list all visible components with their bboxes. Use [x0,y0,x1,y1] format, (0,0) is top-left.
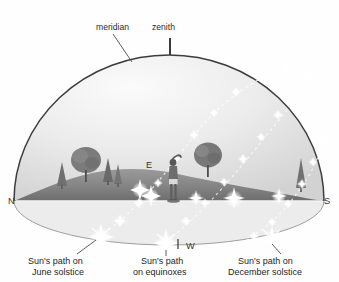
cardinal-label-west: W [186,241,195,251]
caption-december-solstice: Sun's path on December solstice [228,256,302,277]
meridian-leader [113,34,132,62]
meridian-label: meridian [96,22,129,32]
caption-december-line2: December solstice [228,267,302,277]
celestial-sphere-figure: meridian zenith N S E W Sun's path on Ju… [0,0,339,282]
cardinal-label-east: E [146,160,152,170]
caption-december-line1: Sun's path on [238,256,293,266]
star-marker [303,72,313,82]
caption-june-line2: June solstice [32,267,84,277]
caption-leader-june [77,240,96,254]
cardinal-label-south: S [324,196,330,206]
cardinal-label-north: N [8,196,15,206]
caption-june-line1: Sun's path on [28,256,83,266]
zenith-label: zenith [152,22,175,32]
caption-equinoxes-line1: Sun's path [141,256,183,266]
celestial-dome [14,55,324,245]
caption-equinoxes: Sun's path on equinoxes [133,256,187,277]
caption-equinoxes-line2: on equinoxes [133,267,187,277]
caption-june-solstice: Sun's path on June solstice [28,256,84,277]
star-marker [280,61,292,73]
diagram-canvas: meridian zenith N S E W Sun's path on Ju… [0,0,339,282]
